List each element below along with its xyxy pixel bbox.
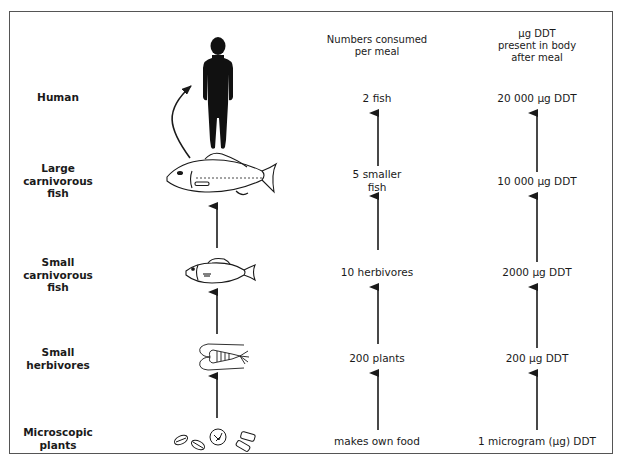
phytoplankton-icon <box>173 429 256 452</box>
diagram-artwork <box>0 0 624 467</box>
shrimp-icon <box>200 344 249 370</box>
small-fish-icon <box>186 259 255 284</box>
large-fish-icon <box>167 153 276 194</box>
human-silhouette-icon <box>203 37 233 149</box>
curved-arrow-icon <box>172 86 191 158</box>
